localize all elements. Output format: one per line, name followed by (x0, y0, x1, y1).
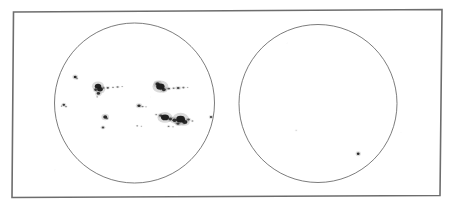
sunspot (155, 82, 159, 86)
sunspot (141, 126, 142, 127)
sunspot (168, 88, 171, 90)
sunspot (173, 88, 175, 89)
sunspot (137, 105, 140, 108)
paper-background (0, 0, 456, 207)
sunspot (61, 106, 62, 107)
sunspot (176, 122, 179, 124)
solar-disk-drawing-canvas (0, 0, 456, 207)
sunspot (103, 87, 105, 89)
sunspot (142, 106, 144, 107)
sunspot (76, 78, 78, 79)
sunspot (162, 88, 166, 91)
sunspot (177, 87, 180, 89)
sunspot (112, 87, 114, 88)
sunspot (136, 125, 138, 126)
sunspot (122, 86, 123, 87)
sunspot (295, 130, 297, 131)
sunspot (102, 126, 105, 128)
sunspot (159, 114, 162, 116)
sunspot (187, 87, 188, 88)
sunspot (155, 114, 157, 115)
sunspot (117, 86, 119, 87)
sunspot (97, 92, 100, 95)
sunspot (182, 87, 184, 89)
sunspot (106, 118, 108, 120)
sunspot (97, 96, 98, 97)
sunspot (172, 126, 173, 127)
sunspot (94, 89, 97, 91)
sunspot (65, 106, 67, 107)
sunspot (192, 120, 194, 121)
sunspot-drawing-sheet (0, 0, 456, 207)
sunspot (107, 87, 109, 89)
sunspot (63, 104, 66, 106)
sunspot (168, 126, 170, 127)
sunspot (210, 116, 212, 118)
sunspot (357, 153, 360, 156)
sunspot (187, 119, 190, 121)
sunspot (145, 106, 146, 107)
